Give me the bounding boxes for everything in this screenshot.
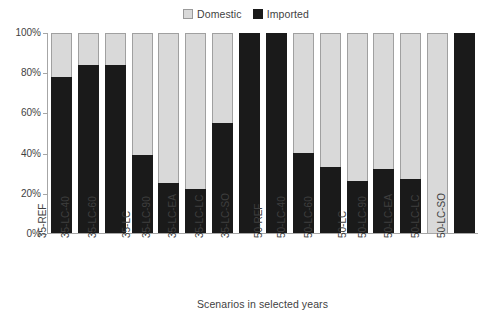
imported-swatch-icon	[253, 9, 263, 19]
x-axis-tick-label: 35-LC-90	[142, 196, 152, 238]
bar-segment-imported	[105, 65, 126, 233]
bar-segment-domestic	[51, 33, 72, 77]
x-axis-tick-label: 50-LC-SO	[437, 193, 447, 238]
bar-segment-domestic	[78, 33, 99, 65]
y-axis-tick-label: 20%	[21, 189, 41, 199]
x-axis-tick: 35-LC-90	[158, 235, 179, 297]
x-axis-title: Scenarios in selected years	[47, 298, 478, 310]
y-axis-tick-label: 60%	[21, 108, 41, 118]
bar-segment-domestic	[158, 33, 179, 183]
x-axis-tick: 50-LC-SO	[454, 235, 475, 297]
x-axis-tick-label: 35-LC-40	[62, 196, 72, 238]
x-axis-tick: 35-LC-40	[77, 235, 98, 297]
bar-35-LC-60	[105, 33, 126, 233]
bar-50-LC-SO	[454, 33, 475, 233]
bar-segment-domestic	[212, 33, 233, 123]
x-axis-tick: 50-LC-LC	[427, 235, 448, 297]
chart-legend: Domestic Imported	[0, 8, 492, 20]
x-axis-tick: 35-LC-LC	[212, 235, 233, 297]
bar-segment-domestic	[132, 33, 153, 155]
x-axis-tick-label: 50-LC-90	[358, 196, 368, 238]
x-axis-tick: 50-LC-60	[319, 235, 340, 297]
bar-segment-domestic	[105, 33, 126, 65]
x-axis-tick-label: 35-REF	[38, 204, 48, 238]
x-axis-tick-label: 50-LC-LC	[411, 195, 421, 238]
bar-segment-domestic	[373, 33, 394, 169]
bar-50-LC-60	[320, 33, 341, 233]
legend-label-domestic: Domestic	[197, 8, 242, 20]
legend-label-imported: Imported	[267, 8, 309, 20]
x-axis-tick: 35-LC-SO	[239, 235, 260, 297]
x-axis-tick-label: 35-LC-LC	[195, 195, 205, 238]
stacked-bar-chart: Domestic Imported 0%20%40%60%80%100% 35-…	[0, 0, 492, 320]
x-axis-tick-label: 35-LC-EA	[168, 194, 178, 238]
x-axis-tick: 35-LC	[131, 235, 152, 297]
bar-segment-domestic	[320, 33, 341, 167]
x-axis-tick-label: 50-LC-60	[304, 196, 314, 238]
bar-segment-domestic	[185, 33, 206, 189]
bar-segment-domestic	[293, 33, 314, 153]
x-axis-tick-label: 35-LC	[123, 211, 133, 238]
bar-segment-domestic	[400, 33, 421, 179]
legend-item-domestic: Domestic	[183, 8, 242, 20]
x-axis-tick: 35-REF	[50, 235, 71, 297]
x-axis-tick: 50-LC	[346, 235, 367, 297]
y-axis-tick-label: 100%	[15, 28, 41, 38]
x-axis-tick: 35-LC-EA	[185, 235, 206, 297]
bar-segment-domestic	[347, 33, 368, 181]
x-axis-tick: 50-LC-40	[292, 235, 313, 297]
x-axis-tick-label: 50-LC-EA	[384, 194, 394, 238]
x-axis-tick: 35-LC-60	[104, 235, 125, 297]
y-axis-tick-label: 80%	[21, 68, 41, 78]
x-axis-tick: 50-LC-EA	[400, 235, 421, 297]
x-axis-tick-label: 35-LC-60	[88, 196, 98, 238]
x-axis-tick-label: 50-LC	[338, 211, 348, 238]
x-axis-tick-label: 50-REF	[254, 204, 264, 238]
bar-segment-imported	[454, 33, 475, 233]
x-axis-tick-label: 50-LC-40	[277, 196, 287, 238]
legend-item-imported: Imported	[253, 8, 309, 20]
y-axis-tick-label: 40%	[21, 149, 41, 159]
x-axis-tick-label: 35-LC-SO	[222, 193, 232, 238]
x-axis: 35-REF35-LC-4035-LC-6035-LC35-LC-9035-LC…	[47, 235, 478, 297]
domestic-swatch-icon	[183, 9, 193, 19]
x-axis-tick: 50-REF	[265, 235, 286, 297]
x-axis-tick: 50-LC-90	[373, 235, 394, 297]
